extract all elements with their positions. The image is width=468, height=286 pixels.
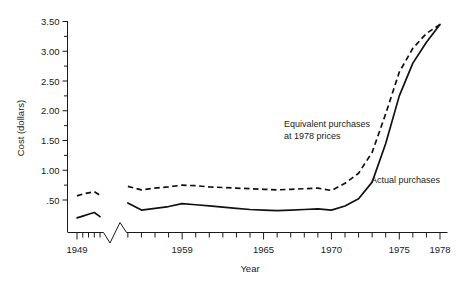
equivalent-purchases-label-line2: at 1978 prices: [284, 131, 341, 141]
y-tick-label: 2.00: [41, 105, 60, 116]
y-axis-tick-labels: 3.503.002.502.001.501.00.50: [41, 16, 60, 206]
equivalent-purchases-label-line1: Equivalent purchases: [284, 119, 371, 129]
y-tick-label: 2.50: [41, 76, 60, 87]
x-tick-label: 1975: [389, 244, 410, 255]
y-tick-label: .50: [46, 195, 59, 206]
y-tick-label: 3.00: [41, 46, 60, 57]
y-tick-label: 3.50: [41, 16, 60, 27]
actual-purchases-label: Actual purchases: [371, 175, 441, 185]
chart-container: 3.503.002.502.001.501.00.50 Cost (dollar…: [0, 0, 468, 286]
x-axis-ticks: [77, 233, 440, 240]
x-axis-tick-labels: 194919591965197019751978: [66, 244, 450, 255]
y-axis-title: Cost (dollars): [15, 100, 26, 157]
x-tick-label: 1959: [172, 244, 193, 255]
x-tick-label: 1965: [253, 244, 274, 255]
x-axis-group: 194919591965197019751978 Year: [66, 223, 450, 275]
x-tick-label: 1970: [321, 244, 342, 255]
y-axis-group: 3.503.002.502.001.501.00.50 Cost (dollar…: [15, 16, 68, 232]
series-equivalent-purchases: [77, 24, 440, 195]
annotations-group: Equivalent purchases at 1978 prices Actu…: [284, 119, 441, 185]
series-group: [77, 24, 440, 217]
y-axis-ticks: [63, 22, 68, 201]
x-axis-title: Year: [240, 263, 259, 274]
y-tick-label: 1.00: [41, 165, 60, 176]
x-tick-label: 1978: [429, 244, 450, 255]
y-tick-label: 1.50: [41, 135, 60, 146]
x-tick-label: 1949: [66, 244, 87, 255]
x-axis-line-with-break: [68, 223, 448, 244]
cost-over-time-line-chart: 3.503.002.502.001.501.00.50 Cost (dollar…: [0, 0, 468, 286]
